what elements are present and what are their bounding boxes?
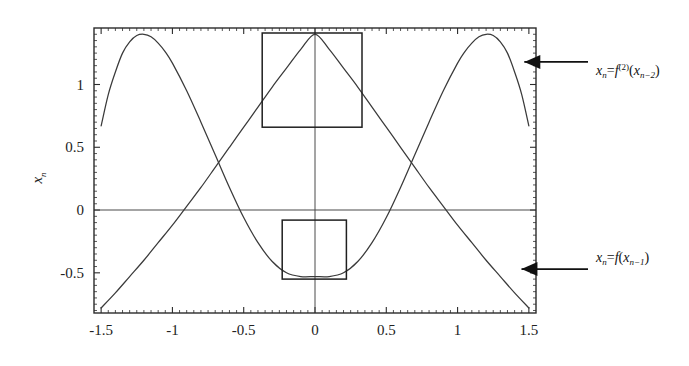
lower-label-arg-sub: n−1 [629,257,644,267]
svg-text:xn: xn [29,172,48,185]
upper-label-eq: = [607,63,615,78]
y-tick-label: 0 [77,202,85,218]
y-tick-label: 1 [77,77,85,93]
y-axis-tick-labels: 10.50-0.5 [60,77,84,281]
x-tick-label: -1.5 [89,322,113,338]
x-tick-label: -1 [166,322,179,338]
lower-label-close: ) [644,250,649,266]
figure-canvas: -1.5-1-0.500.511.5 10.50-0.5 xn xn=f(2)(… [0,0,689,366]
upper-label-fn-sup: (2) [619,62,630,72]
lower-label-eq: = [607,250,615,265]
upper-curve-label: xn=f(2)(xn−2) [595,62,660,80]
chart-root: -1.5-1-0.500.511.5 10.50-0.5 xn xn=f(2)(… [0,0,689,366]
upper-label-arg-sub: n−2 [640,70,656,80]
x-tick-label: 0 [311,322,319,338]
x-tick-label: 1 [454,322,462,338]
upper-label-close: ) [655,63,660,79]
x-axis-tick-labels: -1.5-1-0.500.511.5 [89,322,538,338]
x-tick-label: 1.5 [520,322,539,338]
chart-svg: -1.5-1-0.500.511.5 10.50-0.5 xn xn=f(2)(… [0,0,689,366]
x-tick-label: -0.5 [232,322,256,338]
y-tick-label: -0.5 [60,265,84,281]
x-tick-label: 0.5 [377,322,396,338]
y-tick-label: 0.5 [65,139,84,155]
y-axis-title: xn [29,172,48,185]
lower-curve-label: xn=f(xn−1) [595,250,649,267]
y-axis-title-sub: n [38,172,48,177]
